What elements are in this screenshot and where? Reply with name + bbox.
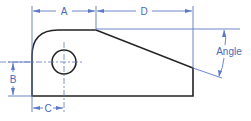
dimension-b: B	[10, 63, 17, 95]
extension-line-angle	[193, 68, 222, 78]
dimension-d-label: D	[140, 6, 147, 17]
technical-drawing: A D B C Angle	[0, 0, 251, 121]
dimension-angle: Angle	[216, 30, 242, 77]
dimension-angle-label: Angle	[216, 46, 242, 57]
dimension-c-label: C	[44, 103, 51, 114]
dimension-a: A	[33, 6, 95, 17]
dimension-d: D	[97, 6, 192, 17]
dimension-a-label: A	[61, 6, 68, 17]
part-outline	[32, 30, 193, 96]
dimension-b-label: B	[10, 74, 17, 85]
dimension-c: C	[33, 103, 63, 114]
